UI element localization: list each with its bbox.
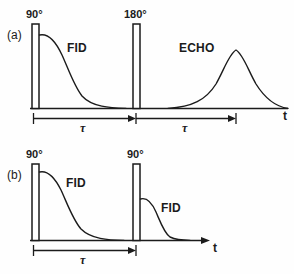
pulse-90-label-2-b: 90°	[127, 149, 144, 160]
fid-label-1-b: FID	[66, 177, 86, 189]
tau-label-1-b: τ	[80, 254, 85, 266]
tau1-arrowhead-a	[128, 115, 136, 122]
panel-a-drawing	[0, 0, 294, 137]
time-axis-arrowhead-b	[201, 237, 210, 244]
time-axis-label-a: t	[283, 110, 287, 122]
echo-label-a: ECHO	[179, 42, 214, 54]
pulse-90-bar-1-b	[32, 164, 39, 241]
pulse-180-bar-a	[133, 24, 140, 109]
pulse-90-bar-a	[32, 24, 39, 109]
pulse-sequence-figure: (a) 90° 180° FID ECHO τ τ t	[0, 0, 294, 274]
pulse-90-label-1-b: 90°	[26, 149, 43, 160]
panel-b-drawing	[0, 137, 294, 274]
pulse-90-label-a: 90°	[26, 9, 43, 20]
tau-label-2-a: τ	[182, 122, 187, 134]
time-axis-label-b: t	[213, 242, 217, 254]
pulse-90-bar-2-b	[133, 164, 140, 241]
echo-curve-a	[168, 50, 288, 108]
panel-tag-b: (b)	[7, 169, 22, 181]
panel-a: (a) 90° 180° FID ECHO τ τ t	[0, 0, 294, 137]
panel-b: (b) 90° 90° FID FID τ t	[0, 137, 294, 274]
tau2-arrowhead-a	[228, 115, 236, 122]
pulse-180-label-a: 180°	[124, 9, 147, 20]
tau-label-1-a: τ	[80, 122, 85, 134]
fid-label-2-b: FID	[161, 202, 181, 214]
panel-tag-a: (a)	[7, 29, 22, 41]
fid-label-a: FID	[67, 42, 87, 54]
tau1-arrowhead-b	[128, 247, 136, 254]
